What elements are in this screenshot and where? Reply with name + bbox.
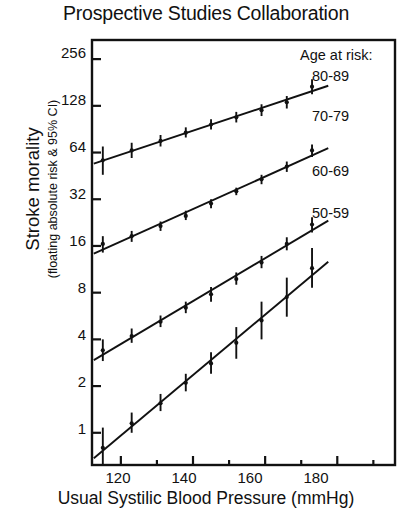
data-point — [101, 348, 105, 352]
data-series-layer — [94, 79, 328, 465]
data-point — [130, 148, 134, 152]
data-point — [184, 131, 188, 135]
data-point — [209, 361, 213, 365]
data-point — [184, 306, 188, 310]
data-point — [234, 189, 238, 193]
data-point — [209, 201, 213, 205]
data-point — [310, 85, 314, 89]
series-70-79 — [94, 145, 328, 254]
data-point — [259, 318, 263, 322]
data-point — [130, 421, 134, 425]
data-point — [158, 401, 162, 405]
data-point — [310, 148, 314, 152]
axis-frame — [92, 40, 395, 465]
data-point — [259, 177, 263, 181]
data-point — [209, 292, 213, 296]
data-point — [130, 334, 134, 338]
data-point — [101, 242, 105, 246]
data-point — [101, 446, 105, 450]
data-point — [101, 158, 105, 162]
data-point — [184, 214, 188, 218]
data-point — [310, 266, 314, 270]
data-point — [184, 381, 188, 385]
data-point — [158, 224, 162, 228]
data-point — [259, 108, 263, 112]
data-point — [285, 242, 289, 246]
series-50-59 — [94, 248, 328, 465]
axis-ticks — [92, 59, 373, 465]
series-80-89 — [94, 79, 328, 175]
data-point — [209, 122, 213, 126]
data-point — [234, 277, 238, 281]
data-point — [158, 139, 162, 143]
data-point — [234, 341, 238, 345]
data-point — [285, 164, 289, 168]
data-point — [158, 320, 162, 324]
data-point — [234, 115, 238, 119]
data-point — [285, 100, 289, 104]
chart-figure: Prospective Studies Collaboration Stroke… — [0, 0, 412, 515]
data-point — [310, 222, 314, 226]
data-point — [130, 234, 134, 238]
data-point — [285, 295, 289, 299]
data-point — [259, 260, 263, 264]
plot-canvas — [0, 0, 412, 515]
